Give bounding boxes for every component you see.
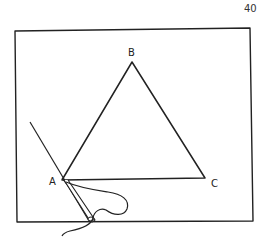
vertex-label-a: A (49, 177, 56, 187)
vertex-label-c: C (211, 179, 218, 189)
triangle-figure (0, 0, 267, 246)
needle-icon (30, 122, 95, 222)
triangle-abc (62, 62, 205, 180)
vertex-label-b: B (128, 48, 135, 58)
